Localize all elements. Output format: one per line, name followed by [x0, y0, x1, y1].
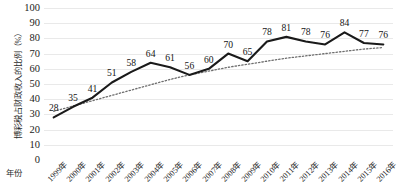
data-label: 56 [185, 61, 195, 71]
x-tick-label: 2006年 [181, 160, 205, 184]
data-label: 35 [68, 93, 78, 103]
data-label: 77 [359, 29, 369, 39]
data-label: 58 [126, 58, 136, 68]
data-label: 65 [243, 47, 253, 57]
data-label: 78 [262, 27, 272, 37]
data-label: 76 [320, 30, 330, 40]
x-tick-label: 1999年 [45, 160, 69, 184]
x-axis-title: 年份 [6, 166, 22, 178]
data-label: 61 [165, 53, 175, 63]
data-label: 41 [88, 84, 98, 94]
x-tick-label: 2010年 [259, 160, 283, 184]
y-tick-label: 10 [6, 140, 40, 150]
x-tick-label: 2000年 [65, 160, 89, 184]
data-label: 51 [107, 68, 117, 78]
data-line-solid [54, 32, 384, 117]
data-label: 84 [340, 18, 350, 28]
y-tick-label: 0 [6, 155, 40, 165]
x-tick-label: 2009年 [239, 160, 263, 184]
x-tick-label: 2013年 [317, 160, 341, 184]
x-tick-label: 2005年 [162, 160, 186, 184]
y-tick-label: 30 [6, 109, 40, 119]
y-tick-label: 70 [6, 49, 40, 59]
data-label: 28 [49, 103, 59, 113]
trendline-dotted [54, 48, 384, 112]
x-tick-label: 2004年 [142, 160, 166, 184]
data-label: 76 [379, 30, 389, 40]
x-axis-tick-labels: 1999年2000年2001年2002年2003年2004年2005年2006年… [44, 160, 393, 195]
y-tick-label: 90 [6, 18, 40, 28]
data-label: 81 [282, 23, 292, 33]
y-tick-label: 60 [6, 64, 40, 74]
x-tick-label: 2001年 [84, 160, 108, 184]
y-tick-label: 80 [6, 33, 40, 43]
x-tick-label: 2015年 [356, 160, 380, 184]
data-label: 78 [301, 27, 311, 37]
data-label: 70 [223, 40, 233, 50]
x-tick-label: 2016年 [375, 160, 397, 184]
x-tick-label: 2011年 [278, 160, 301, 183]
x-tick-label: 2012年 [298, 160, 322, 184]
y-tick-label: 20 [6, 125, 40, 135]
x-tick-label: 2008年 [220, 160, 244, 184]
x-tick-label: 2002年 [104, 160, 128, 184]
y-tick-label: 40 [6, 94, 40, 104]
data-label: 60 [204, 55, 214, 65]
x-tick-label: 2003年 [123, 160, 147, 184]
x-tick-label: 2014年 [336, 160, 360, 184]
data-label: 64 [146, 49, 156, 59]
plot-area: 283541515864615660706578817876847776 [44, 8, 393, 160]
line-chart: 博彩税占财政收入的比例（%） 1009080706050403020100 28… [0, 0, 397, 195]
x-tick-label: 2007年 [201, 160, 225, 184]
y-tick-label: 50 [6, 79, 40, 89]
y-tick-label: 100 [6, 3, 40, 13]
